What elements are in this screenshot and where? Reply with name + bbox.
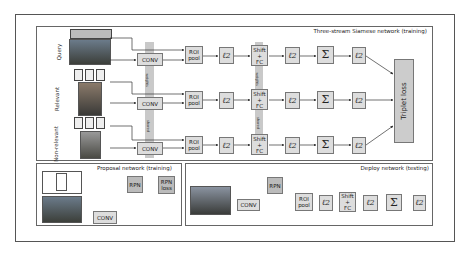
rpn-block-deploy: RPN [267, 177, 283, 194]
conv-block-deploy: CONV [237, 199, 260, 211]
roi-pool-block-deploy: ROIpool [295, 193, 313, 211]
l2-norm-block-query-2: ℓ2 [285, 47, 300, 64]
l2-norm-block-deploy-2: ℓ2 [363, 195, 378, 211]
l2-norm-block-non-relevant-3: ℓ2 [352, 137, 366, 154]
l2-norm-block-non-relevant-1: ℓ2 [219, 137, 234, 154]
deploy-input-image [190, 186, 231, 215]
conv-block-proposal: CONV [93, 211, 117, 224]
proposal-input-image [42, 196, 82, 223]
conv-block-query: CONV [137, 53, 163, 66]
l2-norm-block-deploy-3: ℓ2 [413, 195, 426, 211]
shift-fc-block-query: Shift+FC [251, 45, 268, 66]
conv-block-non-relevant: CONV [137, 142, 163, 155]
l2-norm-block-non-relevant-2: ℓ2 [285, 137, 300, 154]
sum-pool-block-deploy: Σ [386, 194, 402, 211]
conv-block-relevant: CONV [137, 97, 163, 110]
deploy-panel-title: Deploy network (testing) [361, 165, 429, 171]
l2-norm-block-relevant-3: ℓ2 [352, 92, 366, 109]
l2-norm-block-relevant-2: ℓ2 [285, 92, 300, 109]
sum-pool-block-query: Σ [317, 46, 334, 64]
shift-fc-block-non-relevant: Shift+FC [251, 134, 268, 155]
sum-pool-block-non-relevant: Σ [317, 136, 334, 154]
proposal-bounding-box [56, 173, 67, 191]
l2-norm-block-query-3: ℓ2 [352, 47, 366, 64]
rpn-loss-block: RPNloss [158, 176, 175, 194]
shift-fc-block-deploy: Shift+FC [339, 192, 356, 212]
roi-pool-block-query: ROIpool [185, 46, 203, 64]
triplet-loss-block: Triplet loss [394, 59, 414, 143]
proposal-panel-title: Proposal network (training) [97, 165, 172, 171]
l2-norm-block-deploy-1: ℓ2 [319, 195, 333, 211]
l2-norm-block-relevant-1: ℓ2 [219, 92, 234, 109]
sum-pool-block-relevant: Σ [317, 91, 334, 109]
rpn-block-proposal: RPN [127, 176, 143, 193]
roi-pool-block-relevant: ROIpool [185, 91, 203, 109]
l2-norm-block-query-1: ℓ2 [219, 47, 234, 64]
roi-pool-block-non-relevant: ROIpool [185, 136, 203, 154]
shift-fc-block-relevant: Shift+FC [251, 89, 268, 110]
